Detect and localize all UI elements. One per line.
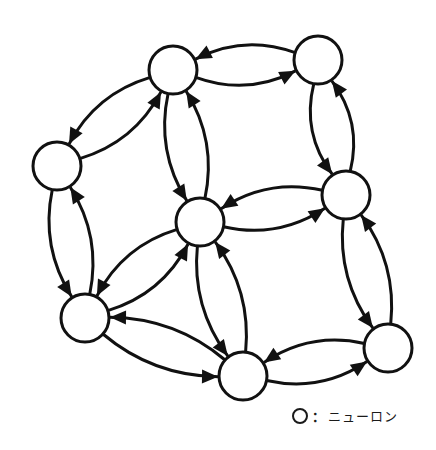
neuron-bottom-right-node bbox=[364, 324, 412, 372]
neuron-bottom-center-node bbox=[219, 352, 267, 400]
arrowhead-icon-G-to-F bbox=[110, 311, 126, 325]
neuron-right-node bbox=[322, 171, 370, 219]
neural-network-diagram bbox=[0, 0, 436, 450]
arrowhead-icon-D-to-F bbox=[97, 279, 111, 296]
edge-F-to-G bbox=[103, 334, 218, 377]
arrowhead-icon-E-to-H bbox=[358, 311, 373, 328]
edge-G-to-D bbox=[215, 242, 246, 352]
legend-label: ニューロン bbox=[328, 406, 398, 425]
arrowhead-icon-F-to-D bbox=[175, 244, 189, 261]
edge-D-to-G bbox=[197, 246, 228, 356]
arrowhead-icon-C-to-A bbox=[147, 92, 161, 110]
legend: ： ニューロン bbox=[292, 406, 398, 425]
arrowhead-icon-B-to-E bbox=[317, 157, 332, 174]
neuron-bottom-left-node bbox=[61, 294, 109, 342]
neuron-top-right-node bbox=[294, 36, 342, 84]
arrowhead-icon-F-to-G bbox=[202, 370, 218, 384]
neuron-top-left-node bbox=[149, 46, 197, 94]
arrowhead-icon-G-to-D bbox=[215, 242, 230, 259]
arrowhead-icon-E-to-B bbox=[332, 81, 347, 98]
arrowhead-icon-H-to-E bbox=[361, 215, 376, 232]
neuron-center-node bbox=[176, 198, 224, 246]
arrowhead-icon-A-to-C bbox=[69, 127, 83, 145]
neuron-left-node bbox=[33, 142, 81, 190]
neuron-circle-icon bbox=[292, 408, 308, 424]
legend-separator: ： bbox=[312, 406, 326, 425]
